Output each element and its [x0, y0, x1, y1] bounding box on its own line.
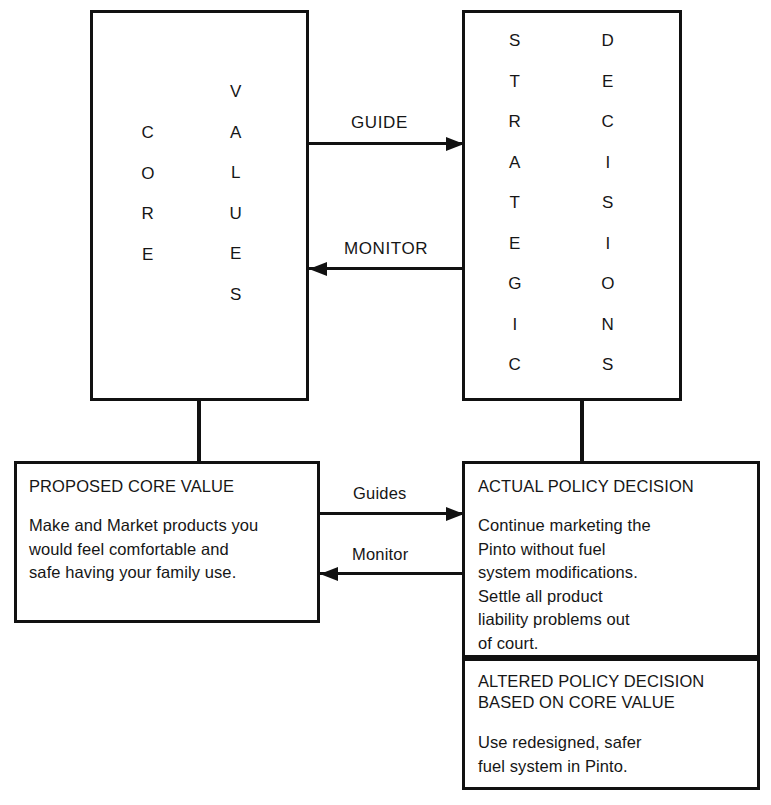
- guides-arrow-label: Guides: [353, 484, 406, 503]
- values-letter-column: V A L U E S: [216, 72, 256, 315]
- decisions-letter-e: E: [602, 62, 614, 103]
- proposed-core-value-content: PROPOSED CORE VALUE Make and Market prod…: [29, 476, 311, 585]
- core-letter-o: O: [141, 154, 155, 195]
- core-letter-column: C O R E: [128, 113, 168, 275]
- proposed-core-value-body: Make and Market products you would feel …: [29, 514, 311, 585]
- altered-policy-decision-content: ALTERED POLICY DECISION BASED ON CORE VA…: [478, 671, 750, 778]
- altered-policy-decision-body: Use redesigned, safer fuel system in Pin…: [478, 731, 750, 778]
- decisions-letter-o: O: [601, 264, 615, 305]
- right-vertical-connector: [580, 398, 584, 463]
- guide-arrow-line: [309, 142, 464, 145]
- values-letter-a: A: [230, 113, 242, 154]
- monitor-arrow-line: [309, 267, 464, 270]
- decisions-letter-column: D E C I S I O N S: [588, 21, 628, 386]
- strategic-letter-a: A: [509, 143, 521, 184]
- altered-policy-decision-title: ALTERED POLICY DECISION BASED ON CORE VA…: [478, 671, 750, 713]
- guide-arrow-label: GUIDE: [351, 113, 408, 132]
- actual-policy-decision-body: Continue marketing the Pinto without fue…: [478, 514, 750, 655]
- monitor-arrow-head-icon: [309, 262, 327, 276]
- decisions-letter-n: N: [602, 305, 615, 346]
- values-letter-u: U: [230, 194, 243, 235]
- strategic-letter-t2: T: [510, 183, 521, 224]
- diagram-canvas: C O R E V A L U E S S T R A T E G I C D …: [0, 0, 771, 805]
- decisions-letter-i1: I: [605, 143, 610, 184]
- guide-arrow-head-icon: [446, 137, 464, 151]
- values-letter-s: S: [230, 275, 242, 316]
- strategic-letter-r: R: [509, 102, 522, 143]
- actual-policy-decision-title: ACTUAL POLICY DECISION: [478, 476, 750, 497]
- strategic-letter-i: I: [512, 305, 517, 346]
- strategic-letter-column: S T R A T E G I C: [495, 21, 535, 386]
- core-values-box: [90, 10, 309, 401]
- core-letter-e: E: [142, 235, 154, 276]
- decisions-letter-s2: S: [602, 345, 614, 386]
- monitor-lower-arrow-line: [320, 572, 464, 575]
- strategic-letter-g: G: [508, 264, 522, 305]
- values-letter-l: L: [231, 153, 241, 194]
- values-letter-e: E: [230, 234, 242, 275]
- monitor-lower-arrow-head-icon: [320, 567, 338, 581]
- strategic-letter-s: S: [509, 21, 521, 62]
- strategic-letter-e: E: [509, 224, 521, 265]
- strategic-letter-t1: T: [510, 62, 521, 103]
- left-vertical-connector: [197, 398, 201, 463]
- decisions-letter-s1: S: [602, 183, 614, 224]
- guides-arrow-line: [320, 512, 464, 515]
- decisions-letter-i2: I: [605, 224, 610, 265]
- monitor-arrow-label: MONITOR: [344, 239, 428, 258]
- strategic-letter-c: C: [509, 345, 522, 386]
- decisions-letter-d: D: [602, 21, 615, 62]
- decisions-letter-c: C: [602, 102, 615, 143]
- actual-policy-decision-content: ACTUAL POLICY DECISION Continue marketin…: [478, 476, 750, 655]
- proposed-core-value-title: PROPOSED CORE VALUE: [29, 476, 311, 497]
- monitor-lower-arrow-label: Monitor: [352, 545, 408, 564]
- core-letter-c: C: [142, 113, 155, 154]
- core-letter-r: R: [142, 194, 155, 235]
- values-letter-v: V: [230, 72, 242, 113]
